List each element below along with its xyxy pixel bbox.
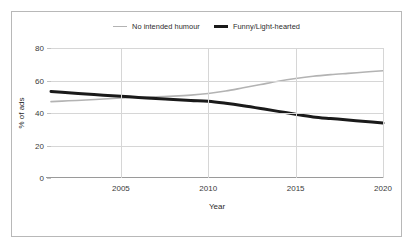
plot-area: 0204060802005201020152020 bbox=[51, 48, 383, 178]
x-tick-label: 2015 bbox=[287, 184, 305, 193]
x-gridline bbox=[296, 48, 297, 178]
y-gridline bbox=[51, 146, 383, 147]
legend-item-label: No intended humour bbox=[132, 22, 200, 31]
y-tick-label: 0 bbox=[40, 174, 44, 183]
y-tick-label: 60 bbox=[35, 76, 44, 85]
y-tick-label: 80 bbox=[35, 44, 44, 53]
series-line bbox=[51, 71, 383, 102]
y-tick-mark bbox=[47, 146, 51, 147]
x-gridline bbox=[121, 48, 122, 178]
y-tick-label: 40 bbox=[35, 109, 44, 118]
x-gridline bbox=[383, 48, 384, 178]
y-tick-mark bbox=[47, 48, 51, 49]
legend-swatch-icon bbox=[214, 25, 228, 28]
y-gridline bbox=[51, 48, 383, 49]
x-tick-label: 2020 bbox=[374, 184, 392, 193]
legend-item-label: Funny/Light-hearted bbox=[233, 22, 300, 31]
legend-swatch-icon bbox=[113, 26, 127, 27]
series-line bbox=[51, 91, 383, 123]
chart-figure: No intended humourFunny/Light-hearted 02… bbox=[11, 11, 402, 237]
y-tick-mark bbox=[47, 81, 51, 82]
y-axis-title: % of ads bbox=[17, 97, 26, 128]
x-tick-label: 2005 bbox=[112, 184, 130, 193]
y-gridline bbox=[51, 113, 383, 114]
chart-legend: No intended humourFunny/Light-hearted bbox=[12, 22, 401, 31]
legend-item[interactable]: Funny/Light-hearted bbox=[214, 22, 300, 31]
y-tick-label: 20 bbox=[35, 141, 44, 150]
x-gridline bbox=[208, 48, 209, 178]
plot-wrapper: 0204060802005201020152020 % of ads Year bbox=[51, 48, 383, 178]
x-axis-title: Year bbox=[209, 202, 225, 211]
legend-item[interactable]: No intended humour bbox=[113, 22, 200, 31]
x-axis-baseline bbox=[46, 177, 383, 178]
y-tick-mark bbox=[47, 178, 51, 179]
y-tick-mark bbox=[47, 113, 51, 114]
x-tick-label: 2010 bbox=[199, 184, 217, 193]
y-gridline bbox=[51, 81, 383, 82]
